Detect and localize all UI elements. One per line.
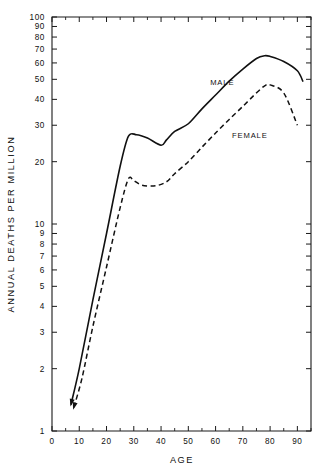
y-tick-label: 7	[40, 252, 45, 261]
series-label-male: MALE	[210, 78, 234, 87]
x-tick-label: 70	[238, 437, 248, 446]
deaths-by-age-log-chart: 100908070605040302010987654321 010203040…	[0, 0, 326, 470]
y-tick-label: 90	[35, 22, 45, 31]
y-tick-label: 1	[40, 427, 45, 436]
y-tick-label: 10	[35, 220, 45, 229]
y-tick-label: 50	[35, 75, 45, 84]
series-start-arrow-female	[73, 402, 78, 410]
series-line-male	[71, 56, 303, 404]
chart-figure: 100908070605040302010987654321 010203040…	[0, 0, 326, 470]
y-tick-label: 20	[35, 158, 45, 167]
y-tick-label: 3	[40, 328, 45, 337]
x-axis-title: AGE	[170, 455, 194, 465]
x-tick-label: 20	[101, 437, 111, 446]
series-annotations: MALEFEMALE	[210, 78, 268, 140]
y-tick-label: 70	[35, 45, 45, 54]
y-tick-label: 80	[35, 33, 45, 42]
x-tick-label: 40	[156, 437, 166, 446]
series-label-female: FEMALE	[232, 131, 268, 140]
y-tick-label: 8	[40, 240, 45, 249]
y-tick-label: 100	[30, 13, 45, 22]
x-tick-label: 10	[74, 437, 84, 446]
y-tick-label: 4	[40, 302, 45, 311]
x-tick-label: 60	[210, 437, 220, 446]
plot-frame	[52, 17, 311, 431]
y-tick-label: 6	[40, 266, 45, 275]
y-axis-ticks: 100908070605040302010987654321	[30, 13, 311, 436]
x-axis-ticks: 0102030405060708090	[49, 17, 311, 446]
y-tick-label: 5	[40, 282, 45, 291]
x-tick-label: 0	[49, 437, 54, 446]
y-tick-label: 9	[40, 229, 45, 238]
y-axis-title: ANNUAL DEATHS PER MILLION	[6, 136, 16, 313]
data-series-group	[70, 56, 303, 410]
y-tick-label: 60	[35, 59, 45, 68]
x-tick-label: 30	[129, 437, 139, 446]
y-tick-label: 2	[40, 365, 45, 374]
y-tick-label: 40	[35, 95, 45, 104]
x-tick-label: 80	[265, 437, 275, 446]
x-tick-label: 90	[292, 437, 302, 446]
x-tick-label: 50	[183, 437, 193, 446]
y-tick-label: 30	[35, 121, 45, 130]
